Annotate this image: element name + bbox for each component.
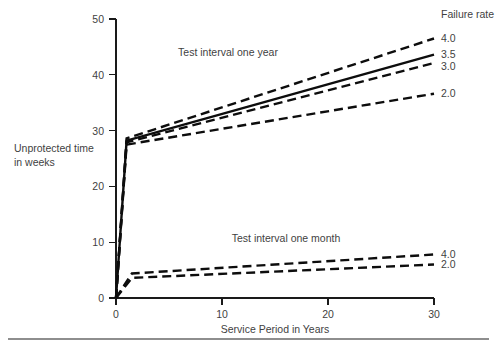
y-tick-label-0: 0 — [98, 292, 104, 304]
legend-label-one-month-2.0: 2.0 — [441, 258, 456, 270]
y-tick-labels: 0 10 20 30 40 50 — [92, 13, 104, 304]
series-one-year-4.0 — [116, 39, 434, 299]
legend-label-one-year-3.5: 3.5 — [441, 48, 456, 60]
chart-figure: 0 10 20 30 40 50 0 10 20 30 Service Peri… — [0, 0, 497, 342]
annotation-test-interval-one-year: Test interval one year — [178, 46, 278, 58]
legend-upper: 4.0 3.5 3.0 2.0 — [441, 32, 456, 99]
x-tick-label-20: 20 — [322, 308, 334, 320]
legend-lower: 4.0 2.0 — [441, 248, 456, 270]
y-axis-title-line1: Unprotected time — [14, 142, 94, 154]
y-tick-label-10: 10 — [92, 236, 104, 248]
y-tick-label-40: 40 — [92, 69, 104, 81]
legend-title: Failure rate — [441, 8, 494, 20]
y-tick-label-20: 20 — [92, 180, 104, 192]
legend-label-one-year-4.0: 4.0 — [441, 32, 456, 44]
y-axis — [109, 19, 116, 298]
annotation-test-interval-one-month: Test interval one month — [232, 232, 341, 244]
x-tick-label-30: 30 — [428, 308, 440, 320]
x-tick-label-0: 0 — [113, 308, 119, 320]
x-axis — [116, 298, 434, 305]
series-one-month-2.0 — [116, 265, 434, 299]
x-axis-title: Service Period in Years — [221, 323, 330, 335]
legend-label-one-year-3.0: 3.0 — [441, 60, 456, 72]
x-tick-label-10: 10 — [216, 308, 228, 320]
series-group-one-month — [116, 255, 434, 299]
series-group-one-year — [116, 39, 434, 299]
y-tick-label-50: 50 — [92, 13, 104, 25]
chart-canvas: 0 10 20 30 40 50 0 10 20 30 Service Peri… — [0, 0, 497, 342]
y-tick-label-30: 30 — [92, 125, 104, 137]
y-axis-title-line2: in weeks — [14, 156, 55, 168]
legend-label-one-year-2.0: 2.0 — [441, 87, 456, 99]
x-tick-labels: 0 10 20 30 — [113, 308, 440, 320]
